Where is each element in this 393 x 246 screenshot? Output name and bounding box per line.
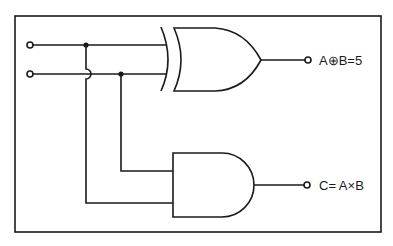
junction-b [118,71,123,76]
xor-output-terminal [305,57,311,63]
wire-a-to-and [86,45,173,203]
frame-border [15,16,381,232]
and-output-terminal [304,182,310,188]
half-adder-circuit [0,0,393,246]
and-gate [173,153,254,217]
xor-gate [174,28,261,91]
wire-b-to-and [121,74,173,171]
xor-output-label: A⊕B=5 [319,54,362,67]
junction-a [83,42,88,47]
and-output-label: C= A×B [319,179,364,192]
xor-gate-back-curve [161,27,168,91]
input-a-terminal [27,42,33,48]
input-b-terminal [27,71,33,77]
